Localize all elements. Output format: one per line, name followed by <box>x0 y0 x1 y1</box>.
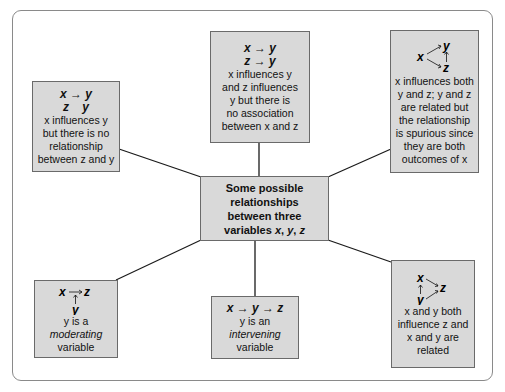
svg-text:z: z <box>442 61 449 74</box>
formula-line-1: x → y → z <box>227 302 284 315</box>
description: x and y both influence z and x and y are… <box>396 305 471 357</box>
connector-bottom-left <box>116 240 201 280</box>
svg-text:x: x <box>416 50 425 64</box>
connector-top-left <box>119 149 201 177</box>
spurious-diagram: x y z <box>415 38 455 74</box>
both-influence-diagram: x z y <box>415 271 451 305</box>
formula-line-1: x → y <box>244 42 276 55</box>
center-line-1: Some possible <box>226 181 304 195</box>
center-line-2: relationships <box>230 195 298 209</box>
formula-line-2: z y <box>63 101 89 114</box>
connector-bottom-right <box>328 240 391 262</box>
svg-text:z: z <box>83 285 90 299</box>
svg-text:x: x <box>58 285 67 299</box>
box-both-influence: x z y x and y both influence z and x and… <box>391 260 475 368</box>
description: x influences both y and z; y and z are r… <box>393 75 476 166</box>
description: x influences y but there is no relations… <box>36 114 116 166</box>
center-line-4: variables x, y, z <box>224 223 305 237</box>
box-moderating: x z y y is a moderating variable <box>34 280 118 358</box>
box-no-relationship: x → y z y x influences y but there is no… <box>32 81 120 172</box>
svg-text:y: y <box>71 303 80 315</box>
formula-line-1: x → y <box>60 88 92 101</box>
svg-text:y: y <box>442 39 451 53</box>
box-independent-influences: x → y z → y x influences y and z influen… <box>210 31 310 143</box>
formula-line-2: z → y <box>244 55 275 68</box>
description: y is an intervening variable <box>227 315 282 354</box>
description: x influences y and z influences y but th… <box>220 68 300 133</box>
box-intervening: x → y → z y is an intervening variable <box>211 296 299 359</box>
svg-text:y: y <box>416 293 425 305</box>
svg-text:z: z <box>439 281 446 295</box>
box-spurious: x y z x influences both y and z; y and z… <box>390 30 479 173</box>
center-box: Some possible relationships between thre… <box>200 176 329 241</box>
svg-text:x: x <box>416 271 425 285</box>
description: y is a moderating variable <box>48 315 105 354</box>
center-line-3: between three <box>228 209 302 223</box>
moderating-diagram: x z y <box>58 285 94 315</box>
connector-top-right <box>328 149 391 177</box>
